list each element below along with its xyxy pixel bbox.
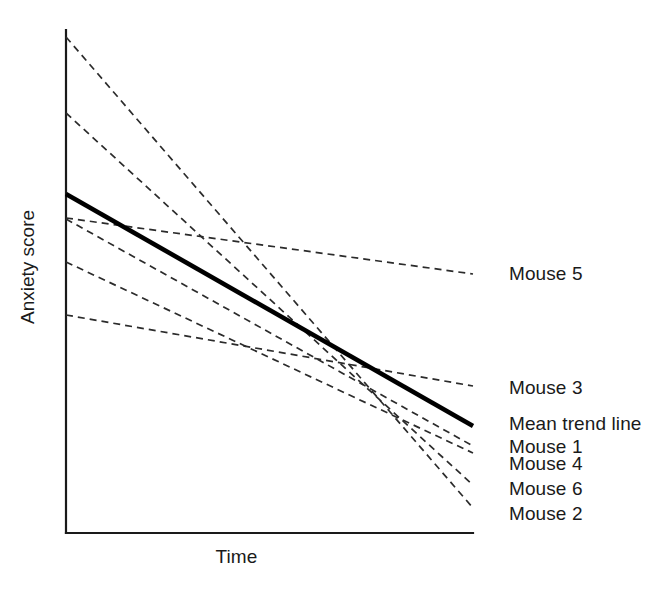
series-label-mouse-3: Mouse 3 [509, 378, 583, 397]
series-line-mouse-1 [66, 219, 473, 446]
chart-plot-area [0, 0, 655, 589]
series-line-mouse-4 [66, 262, 473, 453]
series-label-mouse-6: Mouse 6 [509, 479, 583, 498]
series-label-mouse-4: Mouse 4 [509, 454, 583, 473]
series-line-mean-trend [66, 194, 473, 426]
x-axis-title: Time [0, 546, 473, 568]
series-line-mouse-3 [66, 315, 473, 386]
chart-figure: Anxiety score Time Mouse 5 Mouse 3 Mean … [0, 0, 655, 589]
series-line-mouse-2 [66, 37, 473, 508]
series-label-mean-trend: Mean trend line [509, 414, 641, 433]
series-label-mouse-2: Mouse 2 [509, 504, 583, 523]
series-line-mouse-6 [66, 113, 473, 485]
y-axis-title: Anxiety score [17, 209, 39, 323]
y-axis-title-wrap: Anxiety score [0, 0, 56, 533]
series-label-mouse-5: Mouse 5 [509, 264, 583, 283]
